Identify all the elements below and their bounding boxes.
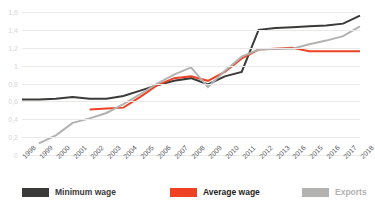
gridline bbox=[22, 137, 360, 138]
legend-swatch bbox=[22, 188, 49, 197]
plot-area bbox=[22, 12, 360, 155]
gridline bbox=[22, 30, 360, 31]
legend-item-minimum-wage[interactable]: Minimum wage bbox=[22, 186, 116, 198]
gridline bbox=[22, 48, 360, 49]
chart-legend: Minimum wageAverage wageExports bbox=[22, 186, 362, 200]
gridline bbox=[22, 84, 360, 85]
y-axis-tick-label: 1,2 bbox=[8, 44, 18, 51]
x-axis: 1998199920002001200220032004200520062007… bbox=[22, 155, 360, 185]
y-axis-tick-label: 1,4 bbox=[8, 26, 18, 33]
legend-swatch bbox=[170, 188, 197, 197]
legend-item-exports[interactable]: Exports bbox=[302, 186, 367, 198]
y-axis-tick-label: 0,6 bbox=[8, 98, 18, 105]
x-axis-tick-label: 2018 bbox=[359, 144, 375, 160]
legend-label: Average wage bbox=[203, 188, 260, 197]
gridline bbox=[22, 12, 360, 13]
y-axis-tick-label: 0,2 bbox=[8, 134, 18, 141]
gridline bbox=[22, 119, 360, 120]
legend-swatch bbox=[302, 188, 329, 197]
series-line-minimum-wage bbox=[22, 16, 360, 100]
y-axis-tick-label: 0,4 bbox=[8, 116, 18, 123]
gridline bbox=[22, 66, 360, 67]
y-axis-tick-label: 0,8 bbox=[8, 80, 18, 87]
y-axis-tick-label: 1 bbox=[14, 62, 18, 69]
series-line-exports bbox=[39, 26, 360, 143]
y-axis: 00,20,40,60,811,21,41,6 bbox=[0, 12, 20, 155]
legend-item-average-wage[interactable]: Average wage bbox=[170, 186, 260, 198]
y-axis-tick-label: 0 bbox=[14, 152, 18, 159]
legend-label: Exports bbox=[335, 188, 367, 197]
legend-label: Minimum wage bbox=[55, 188, 116, 197]
gridline bbox=[22, 101, 360, 102]
y-axis-tick-label: 1,6 bbox=[8, 9, 18, 16]
